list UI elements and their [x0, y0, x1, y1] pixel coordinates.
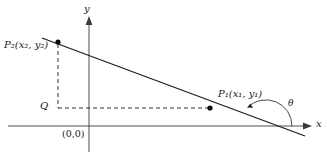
angle-arc-arrowhead: [248, 104, 254, 108]
origin-label: (0,0): [62, 129, 85, 139]
point-marker-p2: [55, 39, 60, 44]
x-axis-label: x: [316, 119, 322, 129]
y-axis-label: y: [84, 4, 90, 14]
secant-line: [42, 38, 305, 136]
x-axis: [8, 123, 312, 130]
point-marker-p1: [207, 105, 212, 110]
point-label-p1: P₁(x₁, y₁): [218, 89, 262, 99]
point-label-p2: P₂(x₂, y₂): [4, 40, 48, 50]
figure-canvas: [0, 0, 327, 158]
angle-label-theta: θ: [288, 99, 293, 108]
y-axis: [86, 16, 93, 152]
geometry-figure: P₂(x₂, y₂) P₁(x₁, y₁) Q (0,0) x y θ: [0, 0, 327, 158]
angle-arc: [248, 100, 293, 126]
arrow-up-icon: [86, 16, 93, 25]
arrow-right-icon: [303, 123, 312, 130]
point-label-q: Q: [40, 101, 48, 111]
